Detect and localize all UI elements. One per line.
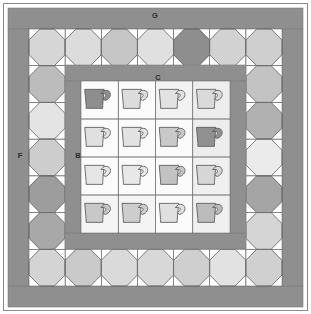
part-label-G: G [152, 11, 158, 20]
snowball-top-5 [174, 29, 210, 66]
snowball-bottom-2 [65, 249, 101, 286]
teacup-body-r4c1 [85, 203, 104, 222]
snowball-left-1 [29, 66, 65, 103]
teacup-body-r1c4 [196, 89, 215, 108]
snowball-top-4 [137, 29, 173, 66]
teacup-body-r1c3 [159, 89, 178, 108]
teacup-body-r4c2 [122, 203, 141, 222]
teacup-body-r3c3 [159, 165, 178, 184]
teacup-body-r1c2 [122, 89, 141, 108]
teacup-body-r3c1 [85, 165, 104, 184]
teacup-body-r3c4 [196, 165, 215, 184]
teacup-body-r2c3 [159, 127, 178, 146]
inner-border-bottom-C [65, 233, 246, 249]
snowball-right-4 [246, 176, 282, 213]
teacup-body-r4c4 [196, 203, 215, 222]
snowball-right-1 [246, 66, 282, 103]
teacup-body-r1c1 [85, 89, 104, 108]
snowball-left-5 [29, 213, 65, 250]
snowball-top-1 [29, 29, 65, 66]
teacup-body-r2c4 [196, 127, 215, 146]
teacup-grid [81, 81, 230, 233]
snowball-right-5 [246, 213, 282, 250]
part-label-B: B [75, 151, 81, 160]
snowball-right-3 [246, 139, 282, 176]
snowball-top-7 [246, 29, 282, 66]
quilt-diagram-canvas: GFCB [0, 0, 311, 314]
snowball-bottom-5 [174, 249, 210, 286]
part-label-C: C [155, 73, 161, 82]
teacup-body-r2c1 [85, 127, 104, 146]
outer-border-bottom-G [8, 286, 303, 307]
snowball-bottom-6 [210, 249, 246, 286]
snowball-top-2 [65, 29, 101, 66]
teacup-body-r4c3 [159, 203, 178, 222]
snowball-bottom-3 [101, 249, 137, 286]
quilt-diagram: GFCB [0, 0, 311, 314]
snowball-bottom-1 [29, 249, 65, 286]
snowball-left-3 [29, 139, 65, 176]
inner-border-right-B [230, 81, 246, 233]
outer-border-right-F [282, 29, 303, 286]
snowball-right-2 [246, 102, 282, 139]
teacup-body-r3c2 [122, 165, 141, 184]
snowball-left-4 [29, 176, 65, 213]
part-label-F: F [18, 151, 23, 160]
snowball-top-3 [101, 29, 137, 66]
snowball-left-2 [29, 102, 65, 139]
snowball-top-6 [210, 29, 246, 66]
teacup-body-r2c2 [122, 127, 141, 146]
snowball-bottom-4 [137, 249, 173, 286]
snowball-bottom-7 [246, 249, 282, 286]
